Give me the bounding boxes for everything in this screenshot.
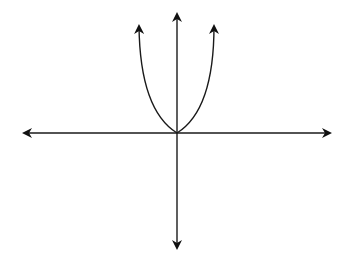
- coordinate-plane: [0, 0, 350, 266]
- parabola-right-branch: [177, 26, 214, 133]
- graph-canvas: [0, 0, 350, 266]
- parabola-left-branch: [139, 26, 177, 133]
